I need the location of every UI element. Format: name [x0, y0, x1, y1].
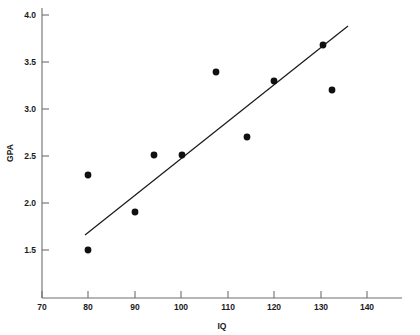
x-tick-label: 110 — [221, 302, 235, 312]
data-points-group — [85, 42, 336, 254]
x-tick-label: 80 — [83, 302, 93, 312]
y-axis-title: GPA — [5, 144, 15, 162]
x-tick-label: 140 — [360, 302, 374, 312]
x-axis-tick-labels: 70 80 90 100 110 120 130 140 — [37, 302, 374, 312]
data-point — [151, 152, 158, 159]
regression-line — [85, 26, 348, 235]
data-point — [85, 247, 92, 254]
data-point — [85, 172, 92, 179]
data-point — [213, 69, 220, 76]
x-axis-title: IQ — [218, 321, 227, 331]
data-point — [271, 78, 278, 85]
data-point — [132, 209, 139, 216]
x-tick-label: 120 — [267, 302, 281, 312]
y-tick-label: 3.5 — [24, 57, 36, 67]
y-tick-label: 2.0 — [24, 198, 36, 208]
x-tick-label: 100 — [174, 302, 188, 312]
y-tick-label: 4.0 — [24, 10, 36, 20]
x-axis-ticks — [42, 291, 367, 298]
data-point — [244, 134, 251, 141]
y-tick-label: 1.5 — [24, 245, 36, 255]
scatter-plot: 4.0 3.5 3.0 2.5 2.0 1.5 70 80 90 100 110… — [0, 0, 420, 335]
data-point — [179, 152, 186, 159]
data-point — [320, 42, 327, 49]
y-tick-label: 2.5 — [24, 151, 36, 161]
x-tick-label: 90 — [130, 302, 140, 312]
y-tick-label: 3.0 — [24, 104, 36, 114]
y-axis-ticks — [42, 15, 49, 250]
data-point — [329, 87, 336, 94]
x-tick-label: 70 — [37, 302, 47, 312]
chart-page: 4.0 3.5 3.0 2.5 2.0 1.5 70 80 90 100 110… — [0, 0, 420, 335]
x-tick-label: 130 — [314, 302, 328, 312]
y-axis-tick-labels: 4.0 3.5 3.0 2.5 2.0 1.5 — [24, 10, 36, 255]
